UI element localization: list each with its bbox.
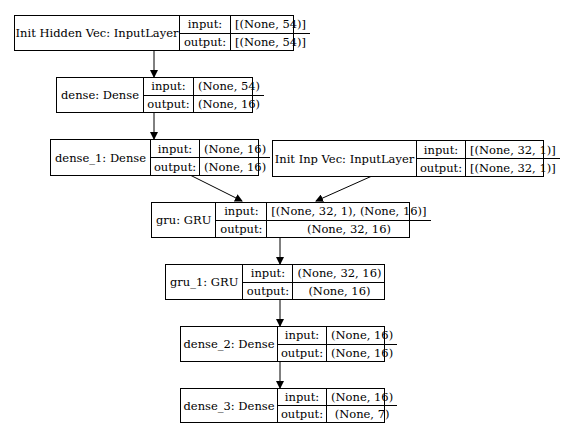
input-shape: (None, 16) bbox=[327, 389, 397, 406]
input-label: input: bbox=[243, 265, 292, 283]
node-dense-2: dense_2: Dense input: output: (None, 16)… bbox=[180, 326, 385, 362]
output-label: output: bbox=[278, 406, 326, 422]
output-shape: [(None, 32, 1)] bbox=[466, 159, 560, 176]
output-shape: (None, 16) bbox=[194, 96, 264, 113]
input-label: input: bbox=[151, 140, 199, 158]
output-label: output: bbox=[243, 283, 292, 300]
output-label: output: bbox=[151, 158, 199, 175]
node-label: Init Inp Vec: InputLayer bbox=[273, 141, 417, 176]
input-shape: [(None, 32, 1)] bbox=[466, 141, 560, 159]
output-label: output: bbox=[216, 221, 266, 238]
node-label: gru_1: GRU bbox=[166, 265, 243, 299]
input-label: input: bbox=[278, 389, 326, 406]
output-shape: (None, 32, 16) bbox=[267, 221, 430, 238]
input-shape: [(None, 32, 1), (None, 16)] bbox=[267, 203, 430, 221]
input-shape: (None, 32, 16) bbox=[293, 265, 385, 283]
input-shape: (None, 54) bbox=[194, 78, 264, 96]
input-shape: [(None, 54)] bbox=[231, 16, 310, 34]
node-label: dense: Dense bbox=[57, 78, 144, 112]
input-label: input: bbox=[180, 16, 230, 34]
node-label: dense_1: Dense bbox=[51, 140, 151, 175]
output-shape: (None, 16) bbox=[293, 283, 385, 300]
input-label: input: bbox=[278, 327, 326, 345]
node-label: Init Hidden Vec: InputLayer bbox=[15, 16, 180, 50]
node-dense-3: dense_3: Dense input: output: (None, 16)… bbox=[180, 388, 385, 423]
output-shape: (None, 7) bbox=[327, 406, 397, 422]
input-label: input: bbox=[417, 141, 465, 159]
node-init-hidden-vec: Init Hidden Vec: InputLayer input: outpu… bbox=[14, 15, 294, 51]
edge-init-inp-to-gru bbox=[316, 176, 372, 201]
edge-dense-1-to-gru bbox=[190, 175, 242, 201]
node-dense: dense: Dense input: output: (None, 54) (… bbox=[56, 77, 253, 113]
input-shape: (None, 16) bbox=[200, 140, 270, 158]
input-label: input: bbox=[144, 78, 193, 96]
node-gru: gru: GRU input: output: [(None, 32, 1), … bbox=[151, 202, 410, 238]
output-label: output: bbox=[180, 34, 230, 51]
node-label: gru: GRU bbox=[152, 203, 216, 237]
output-shape: (None, 16) bbox=[200, 158, 270, 175]
node-init-inp-vec: Init Inp Vec: InputLayer input: output: … bbox=[272, 140, 544, 177]
node-gru-1: gru_1: GRU input: output: (None, 32, 16)… bbox=[165, 264, 385, 300]
output-label: output: bbox=[278, 345, 326, 362]
input-shape: (None, 16) bbox=[327, 327, 397, 345]
node-dense-1: dense_1: Dense input: output: (None, 16)… bbox=[50, 139, 259, 176]
output-shape: (None, 16) bbox=[327, 345, 397, 362]
output-label: output: bbox=[417, 159, 465, 176]
node-label: dense_2: Dense bbox=[181, 327, 278, 361]
input-label: input: bbox=[216, 203, 266, 221]
node-label: dense_3: Dense bbox=[181, 389, 278, 422]
output-label: output: bbox=[144, 96, 193, 113]
output-shape: [(None, 54)] bbox=[231, 34, 310, 51]
